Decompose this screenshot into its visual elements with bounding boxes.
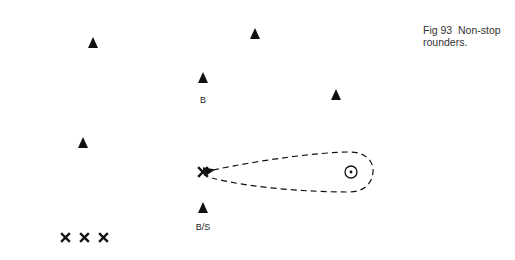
caption-line-2: rounders. [423,36,513,48]
fielder-triangle-icon [78,137,88,148]
backstop-triangle-icon [198,202,208,213]
backstop-label: B/S [196,222,211,232]
waiting-batter-cross-icon [81,234,88,241]
caption-line-1: Fig 93 Non-stop [423,24,513,36]
running-path-dashed [212,152,373,192]
fielder-triangle-icon [88,37,98,48]
fielder-triangle-icon [331,89,341,100]
bowler-label: B [200,95,206,105]
post-circle-dot-icon [345,166,357,178]
waiting-batter-cross-icon [62,234,69,241]
bowler-triangle-icon [198,72,208,83]
fielders [78,28,341,148]
batter-cross-icon [199,168,207,176]
waiting-batter-cross-icon [100,234,107,241]
figure-caption: Fig 93 Non-stop rounders. [423,24,513,48]
fielder-triangle-icon [250,28,260,39]
waiting-batters [62,234,107,241]
